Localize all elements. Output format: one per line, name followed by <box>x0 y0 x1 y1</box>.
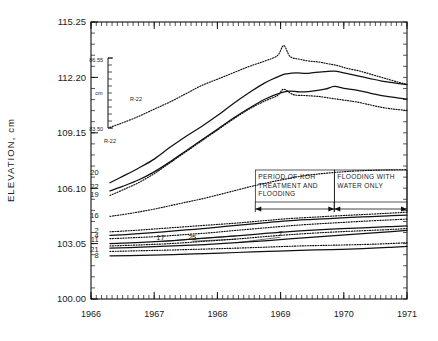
series-label-8: 8 <box>94 251 98 260</box>
x-tick-label: 1967 <box>144 309 164 319</box>
x-axis-tick-labels: 196619671968196919701971 <box>81 309 417 319</box>
series-label-16: 16 <box>90 211 98 220</box>
series-label-17: 17 <box>156 233 164 242</box>
plot-frame <box>91 22 407 299</box>
y-tick-label: 103.05 <box>57 238 86 249</box>
annotation-line: PERIOD OF KOH <box>258 173 315 180</box>
x-tick-label: 1971 <box>397 309 417 319</box>
series-line-20 <box>110 71 407 183</box>
y-tick-label: 109.15 <box>57 127 86 138</box>
series-paths <box>110 46 407 256</box>
annotation-line: TREATMENT AND <box>258 182 318 189</box>
x-tick-label: 1969 <box>271 309 291 319</box>
x-tick-label: 1968 <box>207 309 227 319</box>
y-tick-label: 100.00 <box>57 293 86 304</box>
y-tick-label: 112.20 <box>58 72 86 83</box>
inset-bottom-label: 83.50 <box>89 126 103 132</box>
annotation-line: FLOODING <box>258 190 295 197</box>
annotation-line: WATER ONLY <box>337 182 383 189</box>
series-label-11: 11 <box>91 235 99 244</box>
series-label-r22: R-22 <box>130 96 142 102</box>
series-label-19: 19 <box>90 190 98 199</box>
series-label-25: 25 <box>188 233 196 242</box>
annotation-text-koh: PERIOD OF KOHTREATMENT ANDFLOODING <box>258 173 318 197</box>
inset-top-label: 86.55 <box>89 57 103 63</box>
annotation-text-flooding: FLOODING WITHWATER ONLY <box>337 173 395 189</box>
annotation-line: FLOODING WITH <box>337 173 395 180</box>
y-tick-label: 115.25 <box>58 16 86 27</box>
y-axis-title-group: ELEVATION, cm <box>5 118 16 202</box>
y-tick-label: 106.10 <box>57 183 86 194</box>
series-label-20: 20 <box>90 168 98 177</box>
series-label-7: 7 <box>279 229 283 238</box>
annotation-arrows <box>255 202 407 212</box>
inset-secondary-axis: 86.55 83.50 cm R-22 R-22 <box>89 57 142 144</box>
y-axis-title: ELEVATION, cm <box>5 118 16 202</box>
x-tick-label: 1970 <box>334 309 354 319</box>
series-line-4 <box>110 215 407 235</box>
axis-tick-marks <box>91 22 407 299</box>
inset-unit-label: cm <box>95 90 103 96</box>
y-axis-tick-labels: 100.00103.05106.10109.15112.20115.25 <box>57 16 86 304</box>
x-tick-label: 1966 <box>81 309 101 319</box>
inset-caption-r22: R-22 <box>104 138 116 144</box>
period-annotations: PERIOD OF KOHTREATMENT ANDFLOODING FLOOD… <box>255 170 407 212</box>
elevation-time-series-chart: ELEVATION, cm 100.00103.05106.10109.1511… <box>0 0 438 341</box>
